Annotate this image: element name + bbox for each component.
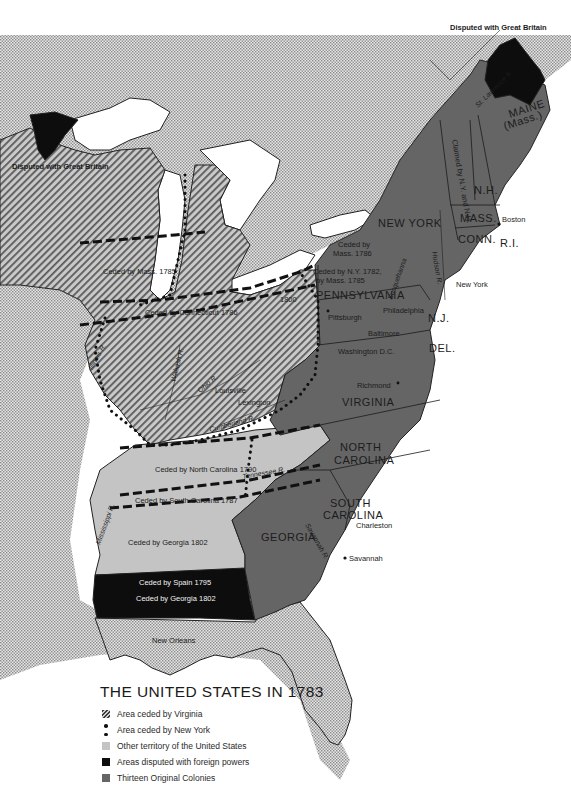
label-del: DEL. xyxy=(429,342,455,354)
label-conn: CONN. xyxy=(458,233,496,245)
label-disputed-ne: Disputed with Great Britain xyxy=(450,23,547,32)
legend-item-virginia: Area ceded by Virginia xyxy=(100,706,400,722)
label-ri: R.I. xyxy=(500,237,519,249)
legend-label: Areas disputed with foreign powers xyxy=(117,757,249,767)
city-louisville: Louisville xyxy=(215,386,246,395)
legend-item-newyork: Area ceded by New York xyxy=(100,722,400,738)
city-charleston: Charleston xyxy=(356,521,392,530)
dark-grey-swatch-icon xyxy=(102,774,110,782)
light-grey-swatch-icon xyxy=(102,742,110,750)
label-ceded-conn-1786: Ceded by Connecticut 1786 xyxy=(145,308,238,317)
label-ceded-ny-a: Ceded by N.Y. 1782, xyxy=(313,267,382,276)
label-ceded-ga-1802-b: Ceded by Georgia 1802 xyxy=(136,594,216,603)
label-ceded-ga-1802: Ceded by Georgia 1802 xyxy=(128,538,208,547)
legend-label: Other territory of the United States xyxy=(117,741,246,751)
city-pittsburgh: Pittsburgh xyxy=(328,313,362,322)
city-boston: Boston xyxy=(502,215,525,224)
label-disputed-nw: Disputed with Great Britain xyxy=(12,162,109,171)
legend-label: Area ceded by Virginia xyxy=(117,709,202,719)
label-nh: N.H. xyxy=(474,184,498,196)
city-washington: Washington D.C. xyxy=(338,347,394,356)
label-ny: NEW YORK xyxy=(378,217,442,229)
black-swatch-icon xyxy=(102,758,110,766)
city-new-orleans: New Orleans xyxy=(152,636,196,645)
legend-title: THE UNITED STATES IN 1783 xyxy=(100,683,400,701)
label-nc-2: CAROLINA xyxy=(334,454,394,466)
city-richmond: Richmond xyxy=(357,381,391,390)
label-sc-2: CAROLINA xyxy=(323,509,383,521)
city-savannah: Savannah xyxy=(349,554,383,563)
legend-label: Thirteen Original Colonies xyxy=(117,773,215,783)
map-legend: THE UNITED STATES IN 1783 Area ceded by … xyxy=(100,683,400,786)
label-ceded-spain-1795: Ceded by Spain 1795 xyxy=(139,578,211,587)
city-new-york: New York xyxy=(456,280,488,289)
label-ceded-mass-1786-b: Mass. 1786 xyxy=(333,249,372,258)
label-sc-1: SOUTH xyxy=(330,497,371,509)
legend-label: Area ceded by New York xyxy=(117,725,210,735)
city-baltimore: Baltimore xyxy=(368,329,400,338)
label-ceded-mass-1786-a: Ceded by xyxy=(338,240,370,249)
label-va: VIRGINIA xyxy=(342,396,394,408)
label-ceded-sc-1787: Ceded by South Carolina 1787 xyxy=(135,496,238,505)
legend-item-other-territory: Other territory of the United States xyxy=(100,738,400,754)
city-philadelphia: Philadelphia xyxy=(383,306,425,315)
legend-item-colonies: Thirteen Original Colonies xyxy=(100,770,400,786)
label-nj: N.J. xyxy=(428,312,450,324)
label-ceded-mass-1785: Ceded by Mass. 1785 xyxy=(103,267,176,276)
legend-item-disputed: Areas disputed with foreign powers xyxy=(100,754,400,770)
label-1800: 1800 xyxy=(280,295,297,304)
city-lexington: Lexington xyxy=(238,398,271,407)
label-ga: GEORGIA xyxy=(261,531,316,543)
label-ceded-ny-b: by Mass. 1785 xyxy=(316,276,365,285)
dots-swatch-icon xyxy=(102,724,110,736)
hatch-swatch-icon xyxy=(102,710,110,718)
label-nc-1: NORTH xyxy=(340,441,381,453)
